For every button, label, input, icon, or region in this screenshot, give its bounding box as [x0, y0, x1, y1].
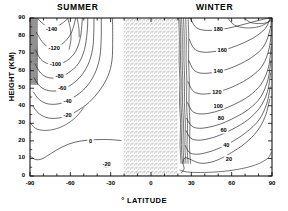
contour-label: -40	[64, 98, 72, 104]
contour-label: 120	[212, 89, 221, 95]
contour-label: 80	[218, 115, 224, 121]
contour-label: -100	[50, 61, 61, 67]
contour-label: 140	[214, 68, 223, 74]
contour-line	[36, 18, 76, 48]
contour-label: -120	[49, 45, 60, 51]
contour-label: 20	[226, 156, 232, 162]
contour-line	[30, 139, 121, 159]
contour-label: 100	[214, 103, 223, 109]
contour-line	[188, 29, 272, 95]
shaded-tropical-band	[124, 18, 178, 176]
contour-line	[186, 18, 188, 164]
contour-line	[184, 18, 186, 164]
contour-line	[189, 18, 270, 52]
figure-contour-plot: SUMMER WINTER HEIGHT (KM) ° LATITUDE 010…	[0, 0, 288, 211]
contour-label: 160	[218, 47, 227, 53]
contour-label: 0	[89, 138, 92, 144]
contour-line	[35, 18, 82, 65]
contour-line	[77, 18, 79, 37]
contour-label: -80	[56, 73, 64, 79]
contour-line	[181, 99, 270, 173]
contour-line	[190, 18, 269, 30]
contour-label: 180	[214, 26, 223, 32]
contour-line	[182, 18, 184, 164]
contour-label: 40	[223, 142, 229, 148]
contour-line	[187, 46, 271, 114]
contour-line	[34, 18, 94, 91]
contour-line	[30, 108, 84, 131]
plot-canvas: -140-120-100-80-60-40-200-20180160140120…	[0, 0, 288, 211]
contour-label: 60	[220, 127, 226, 133]
contour-label: -20	[64, 112, 72, 118]
contour-label: -140	[46, 26, 57, 32]
contour-label: -20	[103, 161, 111, 167]
contour-label: -60	[58, 85, 66, 91]
contour-line	[189, 18, 272, 73]
